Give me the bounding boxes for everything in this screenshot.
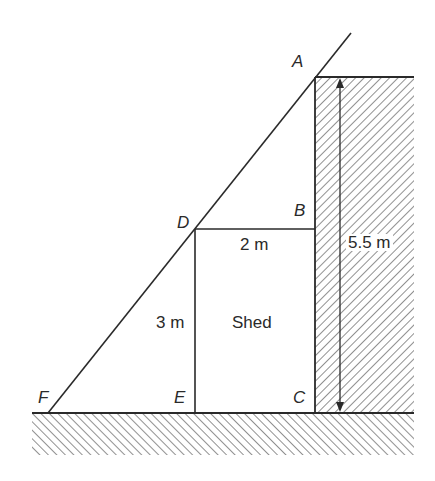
point-label-B: B xyxy=(294,202,305,219)
wall-height-label: 5.5 m xyxy=(346,234,393,251)
ladder-shed-diagram: A B D C E F 2 m 3 m Shed 5.5 m xyxy=(0,0,435,481)
ground-hatch xyxy=(32,413,414,455)
point-label-E: E xyxy=(174,389,185,406)
point-label-D: D xyxy=(177,214,189,231)
shed-width-label: 2 m xyxy=(240,236,268,253)
shed-height-label: 3 m xyxy=(156,314,184,331)
point-label-C: C xyxy=(293,389,305,406)
point-label-A: A xyxy=(292,53,303,70)
shed-label: Shed xyxy=(232,314,272,331)
point-label-F: F xyxy=(38,389,48,406)
ladder-line-FA xyxy=(48,33,351,413)
